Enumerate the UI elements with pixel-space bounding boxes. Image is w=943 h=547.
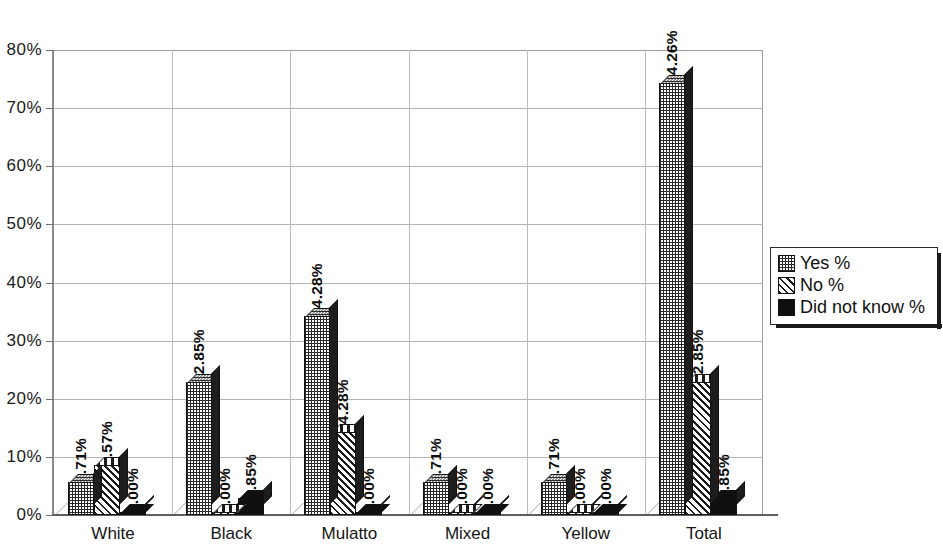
y-axis-tick: [46, 224, 53, 225]
x-axis-category-label: Black: [210, 524, 252, 544]
legend-shadow: [937, 253, 941, 329]
y-axis-tick-label: 80%: [6, 40, 42, 60]
checker-dots-swatch: [778, 255, 795, 272]
chart-legend: Yes %No %Did not know %: [770, 247, 938, 325]
bar: [68, 482, 94, 515]
y-axis-tick: [46, 457, 53, 458]
y-axis-tick: [46, 341, 53, 342]
y-axis-tick: [46, 166, 53, 167]
category-separator: [645, 50, 646, 515]
bar-side-face: [211, 365, 220, 505]
bar: [356, 512, 382, 515]
bar: [120, 512, 146, 515]
y-axis-tick-label: 20%: [6, 389, 42, 409]
bar-side-face: [710, 365, 719, 505]
legend-label: No %: [800, 276, 844, 295]
y-axis-tick: [46, 515, 53, 516]
bar: [541, 482, 567, 515]
y-axis-tick: [46, 50, 53, 51]
bar: [711, 498, 737, 515]
bar: [186, 382, 212, 515]
x-axis-category-label: Mulatto: [322, 524, 378, 544]
legend-label: Yes %: [800, 254, 850, 273]
y-axis-tick-label: 70%: [6, 98, 42, 118]
category-separator: [290, 50, 291, 515]
bar-side-face: [119, 448, 128, 505]
bar: [659, 83, 685, 515]
bar-side-face: [263, 481, 272, 505]
y-axis-tick-label: 60%: [6, 156, 42, 176]
bar: [304, 316, 330, 515]
bar-side-face: [329, 299, 338, 505]
bar-side-face: [736, 481, 745, 505]
y-axis-tick: [46, 283, 53, 284]
category-separator: [172, 50, 173, 515]
y-axis-tick: [46, 399, 53, 400]
x-axis-category-label: Total: [686, 524, 722, 544]
diagonal-hatch-swatch: [778, 277, 795, 294]
y-axis-tick-label: 50%: [6, 214, 42, 234]
x-axis-category-label: White: [91, 524, 134, 544]
legend-label: Did not know %: [800, 298, 925, 317]
bar-side-face: [684, 66, 693, 505]
bar: [475, 512, 501, 515]
plot-area: 5.71%8.57%0.00%22.85%0.00%2.85%34.28%14.…: [54, 50, 763, 515]
legend-item: Yes %: [778, 254, 930, 273]
grouped-bar-chart: 0%10%20%30%40%50%60%70%80% 5.71%8.57%0.0…: [0, 0, 943, 547]
legend-item: Did not know %: [778, 298, 930, 317]
solid-black-swatch: [778, 299, 795, 316]
bar: [212, 512, 238, 515]
y-axis-tick-label: 40%: [6, 273, 42, 293]
y-axis-tick-label: 30%: [6, 331, 42, 351]
y-axis-tick: [46, 108, 53, 109]
y-axis-tick-label: 0%: [16, 505, 42, 525]
y-axis-tick-labels: 0%10%20%30%40%50%60%70%80%: [0, 0, 52, 547]
bar: [449, 512, 475, 515]
legend-item: No %: [778, 276, 930, 295]
bar: [567, 512, 593, 515]
y-axis-tick-label: 10%: [6, 447, 42, 467]
bar-side-face: [355, 415, 364, 505]
category-separator: [409, 50, 410, 515]
x-axis-category-label: Mixed: [445, 524, 490, 544]
category-separator: [527, 50, 528, 515]
bar: [593, 512, 619, 515]
x-axis-category-label: Yellow: [561, 524, 610, 544]
bar: [423, 482, 449, 515]
